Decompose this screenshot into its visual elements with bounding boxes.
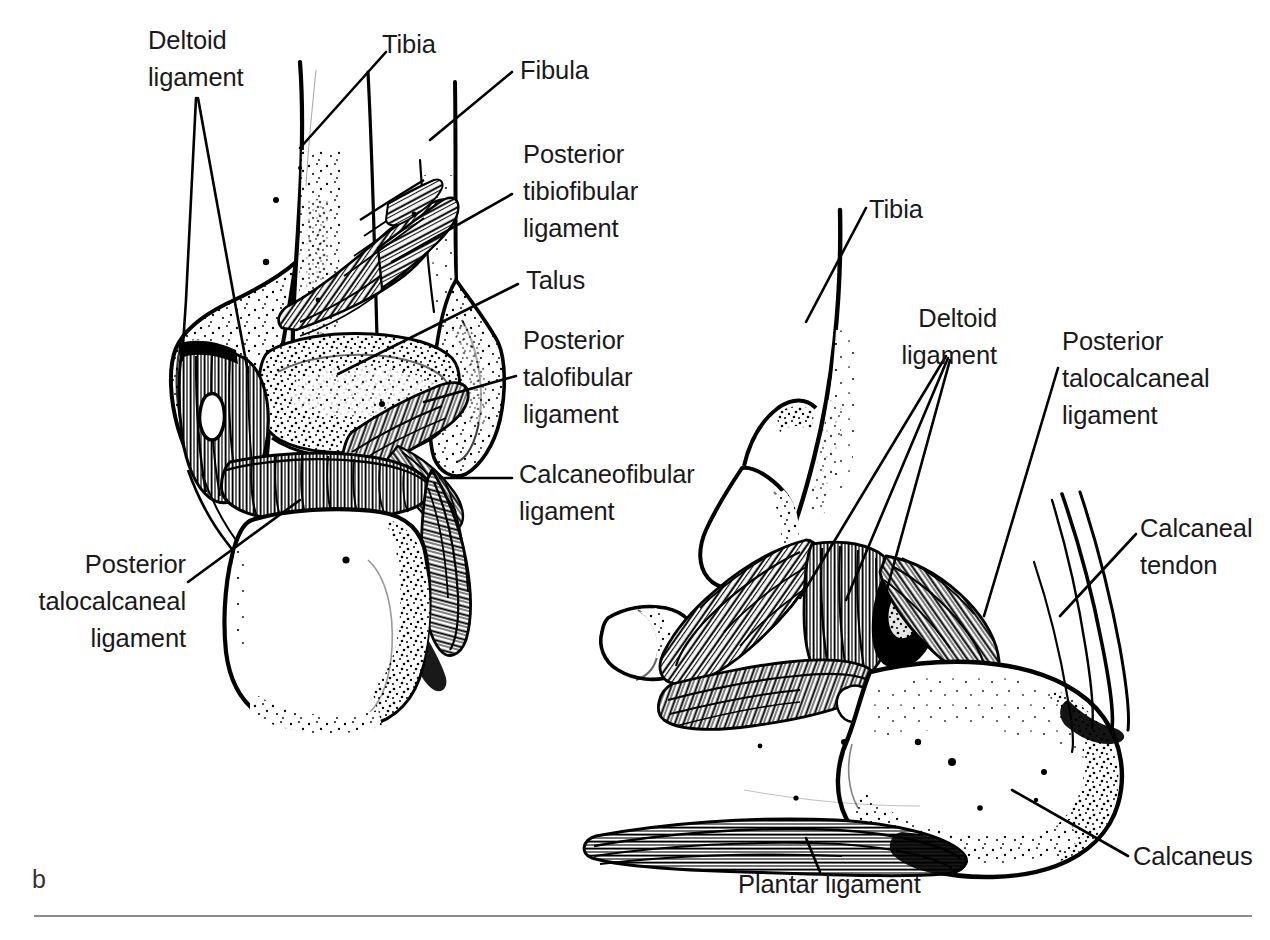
- label-talus-left: Talus: [526, 262, 585, 299]
- label-deltoid-ligament-left: Deltoid ligament: [148, 22, 244, 96]
- label-tibia-right: Tibia: [869, 191, 923, 228]
- calcaneus-bone-left: [224, 509, 429, 733]
- label-posterior-talocalcaneal-ligament-left: Posterior talocalcaneal ligament: [18, 546, 186, 657]
- label-calcaneus: Calcaneus: [1133, 838, 1253, 875]
- label-tibia-left: Tibia: [382, 26, 436, 63]
- tibia-bone-right: [786, 210, 859, 548]
- label-posterior-tibiofibular-ligament-left: Posterior tibiofibular ligament: [523, 136, 638, 247]
- leader-ptcl-right: [984, 368, 1058, 616]
- label-posterior-talofibular-ligament-left: Posterior talofibular ligament: [523, 322, 632, 433]
- caption-divider-rule: [34, 915, 1252, 917]
- anatomical-figure: Deltoid ligament Tibia Fibula Posterior …: [0, 0, 1270, 940]
- label-calcaneal-tendon: Calcaneal tendon: [1140, 510, 1253, 584]
- panel-letter: b: [32, 865, 46, 894]
- label-plantar-ligament: Plantar ligament: [738, 866, 921, 903]
- label-fibula-left: Fibula: [520, 52, 589, 89]
- leader-fibula-left: [430, 72, 512, 140]
- left-anatomy-group: [171, 52, 518, 734]
- label-deltoid-ligament-right: Deltoid ligament: [850, 300, 997, 374]
- label-posterior-talocalcaneal-ligament-right: Posterior talocalcaneal ligament: [1062, 323, 1210, 434]
- label-calcaneofibular-ligament-left: Calcaneofibular ligament: [519, 456, 695, 530]
- leader-deltoid-left-a: [182, 98, 196, 360]
